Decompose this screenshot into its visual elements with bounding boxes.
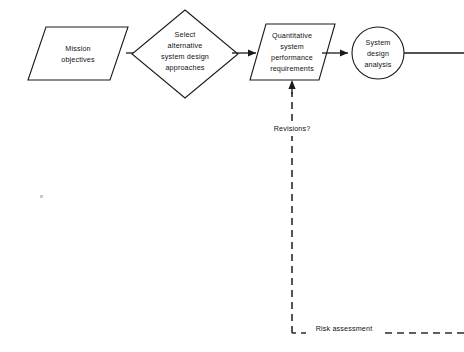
system-design-analysis-line1: System xyxy=(366,38,391,47)
quantitative-requirements-line1: Quantitative xyxy=(272,31,312,40)
system-design-analysis-line2: design xyxy=(367,49,389,58)
quantitative-requirements-line4: requirements xyxy=(270,64,314,73)
arrowhead-select-to-requirements xyxy=(248,50,256,57)
node-mission-objectives[interactable] xyxy=(28,27,128,80)
select-alternatives-line1: Select xyxy=(175,30,196,39)
select-alternatives-line4: approaches xyxy=(165,63,204,72)
flowchart-diagram: Mission objectives Select alternative sy… xyxy=(0,0,464,352)
arrowhead-feedback-to-requirements xyxy=(288,80,295,89)
quantitative-requirements-line2: system xyxy=(280,42,304,51)
system-design-analysis-line3: analysis xyxy=(364,60,391,69)
arrowhead-requirements-to-analysis xyxy=(340,50,348,57)
mission-objectives-line2: objectives xyxy=(61,55,95,64)
select-alternatives-line2: alternative xyxy=(168,41,203,50)
edge-label-risk-assessment: Risk assessment xyxy=(316,324,373,333)
edge-label-revisions: Revisions? xyxy=(274,124,311,133)
flowchart-canvas: Mission objectives Select alternative sy… xyxy=(0,0,464,352)
mission-objectives-line1: Mission xyxy=(65,44,90,53)
select-alternatives-line3: system design xyxy=(161,52,209,61)
quantitative-requirements-line3: performance xyxy=(271,53,313,62)
scan-artifact-speck xyxy=(40,195,43,198)
